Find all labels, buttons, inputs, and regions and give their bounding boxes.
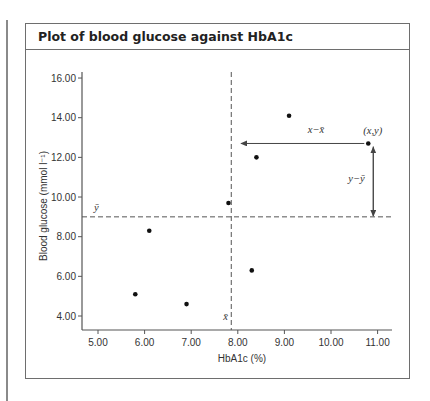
y-deviation-label: y−ȳ: [347, 173, 365, 184]
y-tick-label: 16.00: [51, 73, 76, 84]
x-tick-label: 7.00: [181, 337, 201, 348]
x-deviation-label: x−x̄: [307, 124, 325, 135]
data-point: [287, 113, 292, 118]
y-tick-label: 4.00: [57, 311, 77, 322]
x-tick-label: 10.00: [318, 337, 343, 348]
scatter-chart: 4.006.008.0010.0012.0014.0016.005.006.00…: [0, 0, 430, 401]
x-tick-label: 9.00: [275, 337, 295, 348]
data-point: [147, 228, 152, 233]
x-axis-label: HbA1c (%): [218, 353, 266, 364]
x-tick-label: 11.00: [365, 337, 390, 348]
data-point: [226, 201, 231, 206]
y-tick-label: 6.00: [57, 271, 77, 282]
y-axis-label: Blood glucose (mmol l⁻¹): [38, 151, 49, 261]
data-points: [133, 113, 371, 306]
data-point: [254, 155, 259, 160]
y-tick-label: 12.00: [51, 152, 76, 163]
mean-lines: [82, 72, 392, 330]
mean-x-label: x̄: [222, 311, 228, 322]
data-point: [184, 302, 189, 307]
x-tick-label: 8.00: [228, 337, 248, 348]
data-point: [249, 268, 254, 273]
point-xy-label: (x,y): [363, 125, 382, 137]
axes: 4.006.008.0010.0012.0014.0016.005.006.00…: [38, 72, 392, 364]
y-tick-label: 14.00: [51, 112, 76, 123]
x-tick-label: 6.00: [135, 337, 155, 348]
y-tick-label: 10.00: [51, 192, 76, 203]
y-tick-label: 8.00: [57, 231, 77, 242]
data-point: [133, 292, 138, 297]
x-tick-label: 5.00: [88, 337, 108, 348]
data-point: [366, 141, 371, 146]
mean-y-label: ȳ: [93, 202, 99, 213]
